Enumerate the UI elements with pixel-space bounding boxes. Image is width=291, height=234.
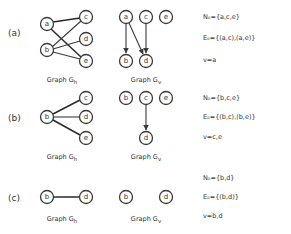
- edge-b-e: [53, 120, 80, 135]
- node-gh-a-d: d: [80, 33, 93, 46]
- node-gh-a-b: b: [41, 44, 54, 57]
- svg-text:d: d: [164, 193, 168, 201]
- node-gv-a-e: e: [160, 11, 173, 24]
- node-gh-b-c: c: [80, 92, 93, 105]
- node-gv-b-c: c: [140, 92, 153, 105]
- svg-text:c: c: [84, 13, 88, 21]
- v-value-a: v=a: [203, 56, 216, 64]
- svg-text:b: b: [124, 57, 129, 65]
- edge-a-c: [53, 18, 80, 22]
- node-gv-a-a: a: [120, 11, 133, 24]
- svg-text:b: b: [124, 193, 129, 201]
- e0-set-c: E₀={(b,d)}: [203, 193, 239, 201]
- graph-gh-a-edges: [51, 18, 81, 59]
- svg-text:d: d: [144, 57, 148, 65]
- node-gh-c-d: d: [80, 191, 93, 204]
- svg-text:a: a: [45, 20, 49, 28]
- svg-text:d: d: [84, 193, 88, 201]
- node-gh-b-d: d: [80, 111, 93, 124]
- node-gv-c-d: d: [160, 191, 173, 204]
- v-value-b: v=c,e: [203, 133, 222, 141]
- part-label-c: (c): [8, 193, 20, 203]
- part-label-b: (b): [8, 113, 21, 123]
- svg-text:c: c: [84, 94, 88, 102]
- node-gh-a-e: e: [80, 55, 93, 68]
- node-gv-a-b: b: [120, 55, 133, 68]
- node-gv-b-b: b: [120, 92, 133, 105]
- node-gh-b-e: e: [80, 132, 93, 145]
- n0-set-c: N₀={b,d}: [203, 174, 235, 182]
- svg-text:b: b: [45, 113, 50, 121]
- svg-text:d: d: [84, 113, 88, 121]
- svg-text:e: e: [84, 57, 88, 65]
- node-gv-c-b: b: [120, 191, 133, 204]
- e0-set-b: E₀={(b,c),(b,e)}: [203, 113, 256, 121]
- graph-gh-label-b: Graph Gh: [47, 153, 78, 162]
- node-gv-a-c: c: [140, 11, 153, 24]
- svg-text:e: e: [164, 13, 168, 21]
- node-gv-a-d: d: [140, 55, 153, 68]
- node-gh-a-c: c: [80, 11, 93, 24]
- node-gh-a-a: a: [41, 18, 54, 31]
- n0-set-b: N₀={b,c,e}: [203, 94, 240, 102]
- graph-gh-label-a: Graph Gh: [47, 76, 78, 85]
- svg-text:c: c: [144, 13, 148, 21]
- part-b: (b) b c d e Graph Gh b c e d Graph Gv N₀…: [8, 92, 256, 163]
- svg-text:e: e: [84, 134, 88, 142]
- svg-text:b: b: [124, 94, 129, 102]
- graph-gv-label-b: Graph Gv: [131, 153, 162, 162]
- arrow-a-d: [129, 23, 143, 54]
- edge-b-c: [53, 100, 80, 114]
- e0-set-a: E₀={(a,c),(a,e)}: [203, 34, 255, 42]
- svg-text:b: b: [45, 193, 50, 201]
- graph-decomposition-figure: (a) a b c d e Graph Gh a c e b d Graph G…: [0, 0, 291, 234]
- graph-gh-label-c: Graph Gh: [47, 215, 78, 224]
- v-value-c: v=b,d: [203, 212, 223, 220]
- svg-text:b: b: [45, 46, 50, 54]
- svg-text:d: d: [144, 134, 148, 142]
- graph-gv-label-c: Graph Gv: [131, 215, 162, 224]
- part-a: (a) a b c d e Graph Gh a c e b d Graph G…: [8, 11, 255, 86]
- graph-gv-a-edges: [126, 23, 146, 54]
- svg-text:e: e: [164, 94, 168, 102]
- graph-gh-b-edges: [53, 100, 80, 135]
- svg-text:d: d: [84, 35, 88, 43]
- node-gv-b-e: e: [160, 92, 173, 105]
- node-gh-c-b: b: [41, 191, 54, 204]
- node-gh-b-b: b: [41, 111, 54, 124]
- svg-text:a: a: [124, 13, 128, 21]
- node-gv-b-d: d: [140, 132, 153, 145]
- part-label-a: (a): [8, 28, 21, 38]
- svg-text:c: c: [144, 94, 148, 102]
- part-c: (c) b d Graph Gh b d Graph Gv N₀={b,d} E…: [8, 174, 239, 224]
- n0-set-a: N₀={a,c,e}: [203, 13, 240, 21]
- graph-gv-label-a: Graph Gv: [131, 76, 162, 85]
